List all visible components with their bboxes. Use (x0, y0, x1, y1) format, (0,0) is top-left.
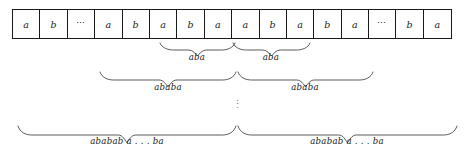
string-decomposition-figure: a b ⋯ a b a b a a b a b a ⋯ b a abaabaab… (0, 0, 475, 157)
tape-cell-ellipsis: ⋯ (369, 10, 396, 38)
tape-cell: a (342, 10, 369, 38)
tape-cell: a (205, 10, 232, 38)
brace-label: ababab a . . . ba (90, 136, 164, 146)
brace-label: ababab a . . . ba (310, 136, 384, 146)
brace-label: ababa (291, 82, 319, 92)
tape-cell-ellipsis: ⋯ (68, 10, 95, 38)
tape-cell: b (396, 10, 423, 38)
brace-label: ababa (154, 82, 182, 92)
tape-cell: b (260, 10, 287, 38)
tape-cell: a (232, 10, 259, 38)
vertical-ellipsis-icon: ⋮ (232, 99, 243, 110)
tape-cell: a (13, 10, 40, 38)
tape-cell: a (95, 10, 122, 38)
tape-cell: a (424, 10, 451, 38)
tape-cell: a (150, 10, 177, 38)
tape-cell: b (177, 10, 204, 38)
tape-cell: a (287, 10, 314, 38)
tape-cell: b (40, 10, 67, 38)
brace-label: aba (263, 52, 280, 62)
tape-cell: b (123, 10, 150, 38)
brace-label: aba (189, 52, 206, 62)
symbol-tape: a b ⋯ a b a b a a b a b a ⋯ b a (12, 9, 452, 39)
tape-cell: b (314, 10, 341, 38)
